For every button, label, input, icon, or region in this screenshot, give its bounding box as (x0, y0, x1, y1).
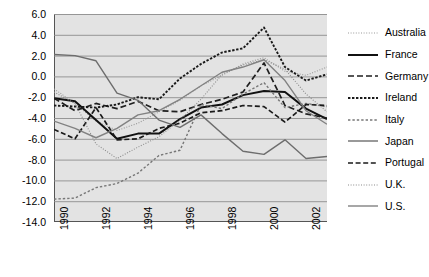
x-tick-label: 1990 (59, 207, 70, 230)
legend-item-italy[interactable]: Italy (348, 109, 428, 131)
legend-item-france[interactable]: France (348, 44, 428, 66)
legend-swatch-icon (348, 136, 378, 146)
x-tick-label: 1994 (143, 207, 154, 230)
chart-figure: 6.04.02.00.0-2.0-4.0-6.0-8.0-10.0-12.0-1… (0, 0, 429, 277)
legend-item-portugal[interactable]: Portugal (348, 152, 428, 174)
x-tick-label: 2000 (269, 207, 280, 230)
legend-label: Ireland (385, 92, 417, 103)
legend-swatch-icon (348, 158, 378, 168)
x-tick-label: 2002 (311, 207, 322, 230)
legend-item-australia[interactable]: Australia (348, 22, 428, 44)
x-tick-label: 1998 (227, 207, 238, 230)
legend-swatch-icon (348, 93, 378, 103)
x-tick-label: 1996 (185, 207, 196, 230)
legend-item-uk[interactable]: U.K. (348, 174, 428, 196)
legend-swatch-icon (348, 115, 378, 125)
legend-swatch-icon (348, 28, 378, 38)
legend-swatch-icon (348, 71, 378, 81)
legend-item-japan[interactable]: Japan (348, 130, 428, 152)
legend-label: Portugal (385, 157, 424, 168)
legend-swatch-icon (348, 201, 378, 211)
legend-label: Germany (385, 71, 428, 82)
legend-swatch-icon (348, 180, 378, 190)
legend-label: Italy (385, 114, 404, 125)
x-tick-label: 1992 (101, 207, 112, 230)
legend-label: France (385, 49, 418, 60)
legend-item-ireland[interactable]: Ireland (348, 87, 428, 109)
legend-item-germany[interactable]: Germany (348, 65, 428, 87)
legend-swatch-icon (348, 50, 378, 60)
legend-label: Australia (385, 27, 426, 38)
legend: AustraliaFranceGermanyIrelandItalyJapanP… (348, 22, 428, 217)
legend-item-us[interactable]: U.S. (348, 196, 428, 218)
legend-label: Japan (385, 136, 414, 147)
legend-label: U.S. (385, 201, 405, 212)
legend-label: U.K. (385, 179, 405, 190)
